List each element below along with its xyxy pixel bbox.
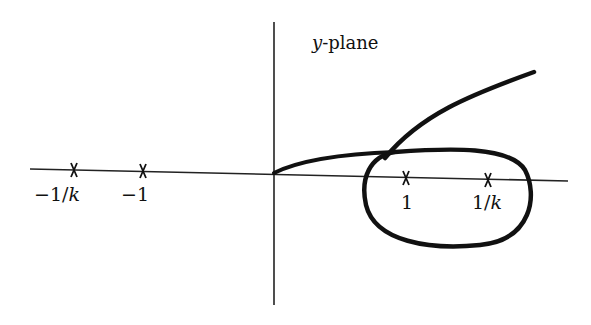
y-plane-diagram: −1/k −1 1 1/k y-plane [0, 0, 591, 325]
plane-title: y-plane [311, 32, 379, 53]
svg-text:−1: −1 [121, 183, 149, 205]
closed-loop-curve [364, 150, 531, 247]
svg-text:1: 1 [401, 191, 413, 213]
marker-neg-one: −1 [121, 164, 149, 205]
svg-text:1/k: 1/k [472, 191, 502, 213]
svg-text:−1/k: −1/k [34, 183, 80, 205]
upper-branch-curve [385, 72, 534, 158]
